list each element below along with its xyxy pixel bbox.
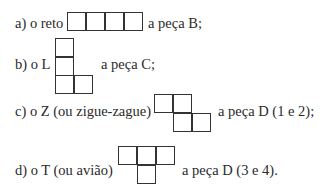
reto-cell [124,12,143,31]
reto-cell [86,12,105,31]
l-cell [55,57,74,76]
reto-cell [67,12,86,31]
t-cell [137,146,156,165]
z-cell [154,94,173,113]
z-cell [192,113,211,132]
l-cell [55,38,74,57]
t-cell [156,146,175,165]
t-cell [137,165,156,184]
z-cell [173,94,192,113]
item-b-label: b) o L [15,57,50,72]
l-cell [74,75,93,94]
item-c-label: c) o Z (ou zigue-zague) [15,104,151,119]
item-d-label: d) o T (ou avião) [15,163,113,178]
item-d-piece: a peça D (3 e 4). [182,163,278,178]
z-cell [173,113,192,132]
item-b-piece: a peça C; [101,57,155,72]
item-a-piece: a peça B; [148,16,202,31]
t-cell [118,146,137,165]
item-c-piece: a peça D (1 e 2); [218,104,314,119]
reto-cell [105,12,124,31]
l-cell [55,75,74,94]
item-a-label: a) o reto [15,16,63,31]
